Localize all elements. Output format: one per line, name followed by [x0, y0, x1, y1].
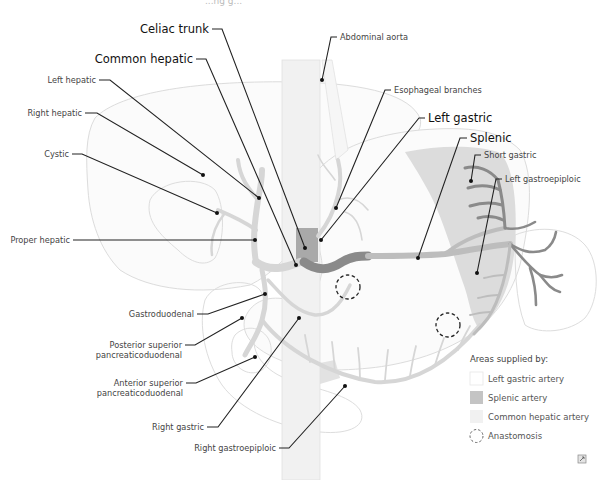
label-abdominal-aorta: Abdominal aorta — [340, 32, 408, 42]
celiac-trunk-diagram: ...ng g... — [0, 0, 608, 480]
label-anterior-superior-pd-2: pancreaticoduodenal — [97, 388, 183, 398]
label-esophageal-branches: Esophageal branches — [394, 85, 482, 95]
label-celiac-trunk: Celiac trunk — [140, 22, 209, 36]
label-short-gastric: Short gastric — [484, 150, 536, 160]
label-posterior-superior-pd-2: pancreaticoduodenal — [96, 350, 182, 360]
label-right-gastroepiploic: Right gastroepiploic — [194, 443, 276, 453]
label-splenic: Splenic — [470, 131, 512, 145]
legend-anastomosis-icon — [470, 430, 483, 443]
label-anterior-superior-pd-1: Anterior superior — [114, 378, 184, 388]
legend-label-anastomosis: Anastomosis — [488, 431, 543, 441]
leader-anterior-superior-pd — [186, 355, 257, 383]
label-gastroduodenal: Gastroduodenal — [129, 309, 194, 319]
legend-label-left-gastric: Left gastric artery — [488, 374, 564, 384]
legend-swatch-splenic — [470, 391, 483, 404]
label-proper-hepatic: Proper hepatic — [10, 235, 70, 245]
label-right-gastric: Right gastric — [152, 422, 204, 432]
legend: Areas supplied by: Left gastric artery S… — [470, 354, 589, 443]
label-right-hepatic: Right hepatic — [27, 108, 82, 118]
label-cystic: Cystic — [44, 149, 69, 159]
cut-off-title: ...ng g... — [205, 0, 242, 6]
legend-label-common-hepatic: Common hepatic artery — [488, 412, 589, 422]
label-left-gastroepiploic: Left gastroepiploic — [505, 174, 581, 184]
label-left-gastric: Left gastric — [428, 111, 492, 125]
label-left-hepatic: Left hepatic — [48, 75, 96, 85]
expand-icon[interactable] — [578, 455, 586, 463]
spleen-outline — [515, 229, 596, 331]
legend-title: Areas supplied by: — [470, 354, 548, 364]
legend-label-splenic: Splenic artery — [488, 393, 547, 403]
label-posterior-superior-pd-1: Posterior superior — [110, 340, 183, 350]
legend-swatch-common-hepatic — [470, 410, 483, 423]
leader-posterior-superior-pd — [185, 316, 244, 345]
label-common-hepatic: Common hepatic — [95, 52, 193, 66]
legend-swatch-left-gastric — [470, 372, 483, 385]
